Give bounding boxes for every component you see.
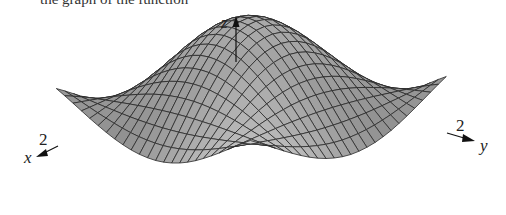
surface-mesh [56, 15, 446, 163]
y-axis-label: y [480, 137, 488, 154]
x-axis-arrow-icon [36, 149, 48, 157]
x-tick-label: 2 [39, 131, 48, 148]
x-axis-label: x [24, 149, 32, 166]
y-axis-arrow-icon [462, 134, 475, 142]
y-tick-label: 2 [456, 117, 465, 134]
surface-plot [0, 0, 506, 215]
z-axis-label: z [221, 14, 228, 31]
